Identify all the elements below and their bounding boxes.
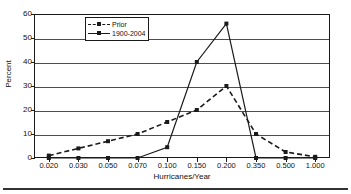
y-axis-tick-label: 0	[6, 154, 32, 162]
data-point-marker	[195, 60, 199, 64]
x-axis-tick-label: 1.000	[306, 162, 325, 170]
x-axis-tick-label: 0.020	[39, 162, 58, 170]
data-point-marker	[165, 145, 169, 149]
footer-divider	[3, 188, 348, 190]
data-series-layer	[34, 14, 330, 158]
data-point-marker	[195, 108, 199, 112]
x-axis-tick-label: 0.030	[69, 162, 88, 170]
x-axis-title: Hurricanes/Year	[34, 172, 330, 181]
data-point-marker	[165, 120, 169, 124]
data-point-marker	[106, 139, 110, 143]
legend-swatch	[88, 20, 110, 29]
chart-legend: Prior1900-2004	[85, 17, 149, 41]
y-axis-tick-label: 20	[6, 106, 32, 114]
x-axis-tick-label: 0.350	[247, 162, 266, 170]
x-axis-tick-label: 0.150	[187, 162, 206, 170]
series-line	[49, 86, 315, 157]
y-axis-tick-label: 10	[6, 130, 32, 138]
y-axis-tick-mark	[31, 158, 35, 159]
x-axis-tick-label: 0.200	[217, 162, 236, 170]
x-axis-tick-labels: 0.0200.0300.0500.0700.1000.1500.2000.350…	[34, 160, 330, 172]
legend-swatch	[88, 29, 110, 38]
series-prior	[47, 84, 317, 159]
x-axis-tick-label: 0.500	[276, 162, 295, 170]
series-1900-2004	[47, 22, 317, 160]
data-point-marker	[254, 132, 258, 136]
y-axis-tick-label: 50	[6, 34, 32, 42]
legend-marker-icon	[97, 22, 101, 26]
hurricane-frequency-line-chart: Percent 0102030405060 Prior1900-2004 0.0…	[0, 0, 351, 194]
y-axis-tick-label: 30	[6, 82, 32, 90]
y-axis-tick-label: 60	[6, 10, 32, 18]
x-axis-tick-label: 0.100	[158, 162, 177, 170]
legend-entry: 1900-2004	[88, 29, 145, 38]
y-axis-tick-labels: 0102030405060	[0, 14, 32, 158]
data-point-marker	[284, 150, 288, 154]
legend-label: Prior	[110, 21, 127, 29]
legend-entry: Prior	[88, 20, 145, 29]
x-axis-tick-label: 0.070	[128, 162, 147, 170]
data-point-marker	[76, 146, 80, 150]
data-point-marker	[224, 22, 228, 26]
y-axis-tick-label: 40	[6, 58, 32, 66]
legend-marker-icon	[97, 31, 101, 35]
data-point-marker	[224, 84, 228, 88]
series-line	[49, 24, 315, 158]
data-point-marker	[136, 132, 140, 136]
legend-label: 1900-2004	[110, 30, 145, 38]
x-axis-tick-label: 0.050	[99, 162, 118, 170]
